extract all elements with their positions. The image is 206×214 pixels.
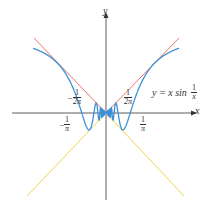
plot [0,0,206,214]
y-axis-label: y [103,6,107,16]
tick-neg-1-over-2pi: 1 2π [73,89,81,106]
curve-y-equals-x-right [106,38,179,113]
figure: y x y = x sin 1 x − 1 2π 1 2π − 1 π 1 π [0,0,206,214]
tick-pos-1-over-2pi: 1 2π [124,89,132,106]
x-axis-label: x [195,106,199,116]
tick-neg-1-over-2pi-sign: − [67,93,72,103]
tick-pos-1-over-pi: 1 π [140,116,146,133]
tick-neg-1-over-pi: 1 π [64,116,70,133]
